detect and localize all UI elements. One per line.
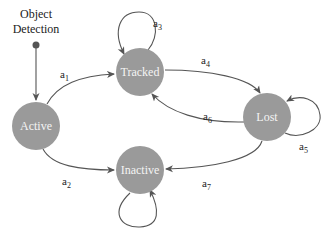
start-dot-icon [33,42,40,49]
node-tracked: Tracked [116,48,164,96]
edge-a1 [47,74,114,104]
node-lost: Lost [243,93,291,141]
edge-a2 [43,149,114,170]
edge-a7 [166,141,262,169]
edge-a3 [118,12,155,54]
edge-label-a4: a4 [201,54,210,69]
start-label-line2: Detection [13,22,60,36]
node-active-label: Active [20,119,52,133]
node-inactive: Inactive [116,146,164,194]
diagram-svg: Object Detection Active Tracked Lost Ina… [0,0,336,237]
edge-label-a5: a5 [299,140,308,155]
state-diagram: Object Detection Active Tracked Lost Ina… [0,0,336,237]
edge-label-a7: a7 [202,177,211,192]
edge-label-a3: a3 [153,17,162,32]
edge-label-a2: a2 [62,175,71,190]
node-active: Active [12,102,60,150]
edge-label-a6: a6 [203,110,212,125]
edge-inactive-loop [119,190,156,227]
node-tracked-label: Tracked [121,65,160,79]
edge-a4 [165,70,260,93]
node-inactive-label: Inactive [121,163,160,177]
edge-a6 [152,94,244,122]
edge-label-a1: a1 [60,68,69,83]
node-lost-label: Lost [256,110,278,124]
start-label-line1: Object [20,7,53,21]
